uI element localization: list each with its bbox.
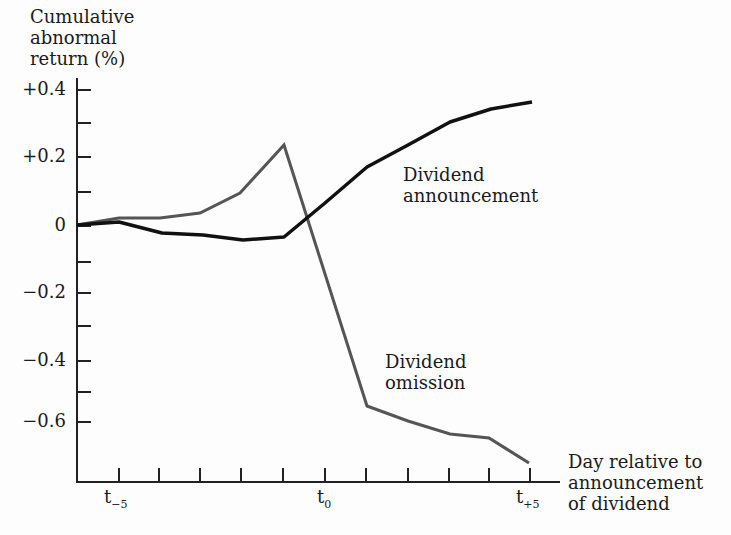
series-label-line: announcement [403, 185, 538, 206]
announcement-series-label: Dividend announcement [403, 164, 538, 206]
x-axis-title: Day relative to announcement of dividend [568, 451, 703, 514]
x-tick-label-t-minus-5: t−5 [104, 486, 127, 511]
x-axis-title-line: of dividend [568, 493, 703, 514]
x-axis-title-line: announcement [568, 472, 703, 493]
axes [76, 78, 560, 482]
x-tick-label-t0: t0 [317, 486, 331, 511]
omission-series-label: Dividend omission [385, 351, 466, 393]
x-tick-label-t-plus-5: t+5 [516, 486, 539, 511]
x-axis-title-line: Day relative to [568, 451, 703, 472]
series-label-line: Dividend [385, 351, 466, 372]
series-label-line: omission [385, 372, 466, 393]
series-label-line: Dividend [403, 164, 538, 185]
